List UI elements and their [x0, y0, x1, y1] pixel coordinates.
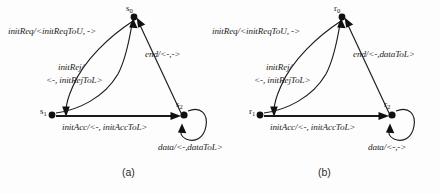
state-label-r0: r0 — [334, 3, 340, 13]
state-label-r2: r2 — [384, 99, 390, 109]
arrowhead-init-acc-b — [379, 112, 390, 120]
state-label-s2-sub: 2 — [180, 103, 183, 110]
edge-label-data-loop-a: data/<-,dataToL> — [158, 142, 223, 153]
state-dot-r1 — [257, 112, 264, 119]
caption-panel-a: (a) — [122, 166, 135, 178]
state-label-r1-sub: 1 — [252, 110, 255, 117]
arrowhead-data-loop-b — [386, 124, 394, 134]
state-dot-s1 — [49, 112, 56, 119]
state-dot-r2 — [388, 111, 395, 118]
edge-label-init-rej-b-line2: <-, initRejToL> — [254, 74, 310, 86]
state-label-s2: s2 — [176, 99, 183, 109]
state-label-r0-sub: 0 — [337, 7, 340, 14]
state-label-s0: s0 — [126, 3, 133, 13]
edge-label-init-acc-a: initAcc/<-, initAccToL> — [62, 122, 147, 133]
edge-label-init-acc-b: initAcc/<-, initAccToL> — [270, 122, 355, 133]
edge-label-init-rej-a-line2: <-, initRejToL> — [46, 74, 102, 86]
edge-label-end-b: end/<-,dataToL> — [353, 49, 415, 60]
state-label-s1: s1 — [40, 106, 47, 116]
caption-panel-b: (b) — [318, 166, 331, 178]
edge-end-a — [139, 23, 181, 113]
edge-end-b — [347, 23, 389, 113]
arrowhead-end-a — [137, 18, 146, 28]
edge-label-init-rej-a-line1: initRej/ — [58, 61, 84, 73]
edge-label-init-req-a: initReq/<initReqToU, -> — [8, 26, 96, 37]
state-label-s1-sub: 1 — [44, 110, 47, 117]
state-label-r1: r1 — [249, 106, 255, 116]
edge-label-data-loop-b: data/<-,-> — [368, 142, 406, 153]
state-dot-s0 — [131, 14, 138, 21]
arrowhead-data-loop-a — [178, 124, 186, 134]
arrowhead-init-acc-a — [171, 112, 182, 120]
state-dot-r0 — [339, 14, 346, 21]
edge-label-init-req-b: initReq/<initReqToU, -> — [212, 26, 300, 37]
edge-label-end-a: end/<-,-> — [145, 49, 180, 60]
state-label-s0-sub: 0 — [130, 7, 133, 14]
state-dot-s2 — [180, 111, 187, 118]
arrowhead-end-b — [345, 18, 354, 28]
state-label-r2-sub: 2 — [387, 103, 390, 110]
edge-label-init-rej-b-line1: initRej/ — [266, 61, 292, 73]
figure-root: s0 s1 s2 initReq/<initReqToU, -> initRej… — [0, 0, 440, 194]
